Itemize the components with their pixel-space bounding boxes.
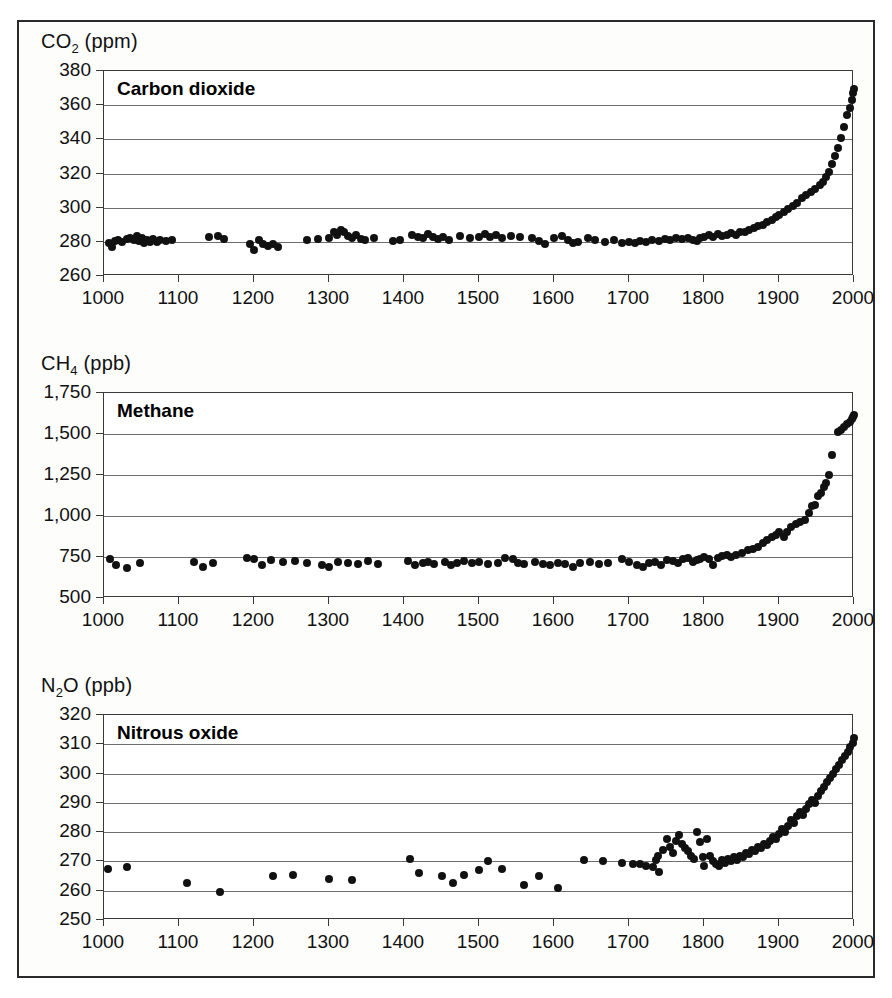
x-tick-mark <box>478 275 479 282</box>
plot-area-co2 <box>103 70 853 275</box>
x-tick-label: 1600 <box>532 609 574 631</box>
x-tick-mark <box>103 597 104 604</box>
x-tick-label: 1200 <box>232 931 274 953</box>
y-tick-label: 1,750 <box>19 381 91 403</box>
gridline <box>104 208 852 209</box>
x-tick-mark <box>703 919 704 926</box>
plot-area-n2o <box>103 714 853 919</box>
data-point <box>831 152 839 160</box>
data-point <box>274 243 282 251</box>
data-point <box>209 559 217 567</box>
data-point <box>344 559 352 567</box>
x-tick-mark <box>553 597 554 604</box>
x-tick-label: 1600 <box>532 931 574 953</box>
data-point <box>669 849 677 857</box>
gridline <box>104 744 852 745</box>
data-point <box>456 232 464 240</box>
data-point <box>822 479 830 487</box>
y-tick-mark <box>96 831 103 832</box>
data-point <box>449 879 457 887</box>
data-point <box>850 734 858 742</box>
y-tick-mark <box>96 392 103 393</box>
y-tick-mark <box>96 515 103 516</box>
data-point <box>848 96 856 104</box>
data-point <box>825 168 833 176</box>
y-tick-mark <box>96 802 103 803</box>
x-tick-label: 2000 <box>832 609 874 631</box>
gridline <box>104 174 852 175</box>
x-tick-mark <box>178 919 179 926</box>
x-tick-mark <box>553 919 554 926</box>
y-tick-mark <box>96 275 103 276</box>
x-tick-mark <box>703 275 704 282</box>
x-tick-label: 1900 <box>757 931 799 953</box>
data-point <box>250 555 258 563</box>
data-point <box>466 234 474 242</box>
x-tick-mark <box>253 275 254 282</box>
data-point <box>494 559 502 567</box>
data-point <box>599 857 607 865</box>
x-tick-label: 1100 <box>158 287 199 309</box>
x-tick-mark <box>253 919 254 926</box>
data-point <box>601 238 609 246</box>
data-point <box>554 884 562 892</box>
x-tick-label: 1400 <box>382 287 424 309</box>
data-point <box>205 233 213 241</box>
x-tick-mark <box>778 597 779 604</box>
data-point <box>541 240 549 248</box>
x-tick-label: 1800 <box>682 287 724 309</box>
data-point <box>430 560 438 568</box>
data-point <box>460 871 468 879</box>
data-point <box>675 831 683 839</box>
y-tick-mark <box>96 173 103 174</box>
x-tick-label: 1600 <box>532 287 574 309</box>
data-point <box>415 869 423 877</box>
series-title-co2: Carbon dioxide <box>117 78 255 100</box>
data-point <box>604 559 612 567</box>
y-tick-label: 1,500 <box>19 422 91 444</box>
gridline <box>104 803 852 804</box>
x-tick-label: 1500 <box>457 609 499 631</box>
data-point <box>700 862 708 870</box>
y-tick-label: 360 <box>19 93 91 115</box>
x-tick-label: 1400 <box>382 931 424 953</box>
x-tick-mark <box>328 597 329 604</box>
plot-area-ch4 <box>103 392 853 597</box>
x-tick-label: 1000 <box>82 931 124 953</box>
data-point <box>846 104 854 112</box>
data-point <box>586 558 594 566</box>
x-tick-label: 1500 <box>457 287 499 309</box>
data-point <box>850 85 858 93</box>
data-point <box>811 501 819 509</box>
axis-unit-label-co2: CO2 (ppm) <box>41 30 138 56</box>
data-point <box>123 564 131 572</box>
x-tick-mark <box>178 597 179 604</box>
data-point <box>123 863 131 871</box>
y-tick-label: 250 <box>19 908 91 930</box>
x-tick-label: 1800 <box>682 609 724 631</box>
y-tick-label: 340 <box>19 127 91 149</box>
y-tick-label: 300 <box>19 762 91 784</box>
y-tick-label: 1,250 <box>19 463 91 485</box>
y-tick-mark <box>96 743 103 744</box>
x-tick-label: 1300 <box>307 931 349 953</box>
data-point <box>291 557 299 565</box>
data-point <box>220 235 228 243</box>
data-point <box>801 516 809 524</box>
y-tick-label: 750 <box>19 545 91 567</box>
data-point <box>790 819 798 827</box>
axis-unit-label-ch4: CH4 (ppb) <box>41 352 131 378</box>
data-point <box>250 246 258 254</box>
y-tick-label: 380 <box>19 59 91 81</box>
x-tick-mark <box>403 275 404 282</box>
data-point <box>580 856 588 864</box>
x-tick-mark <box>478 597 479 604</box>
x-tick-mark <box>253 597 254 604</box>
data-point <box>520 881 528 889</box>
data-point <box>216 888 224 896</box>
data-point <box>618 859 626 867</box>
data-point <box>484 857 492 865</box>
x-tick-label: 1100 <box>158 609 199 631</box>
data-point <box>693 828 701 836</box>
gridline <box>104 139 852 140</box>
